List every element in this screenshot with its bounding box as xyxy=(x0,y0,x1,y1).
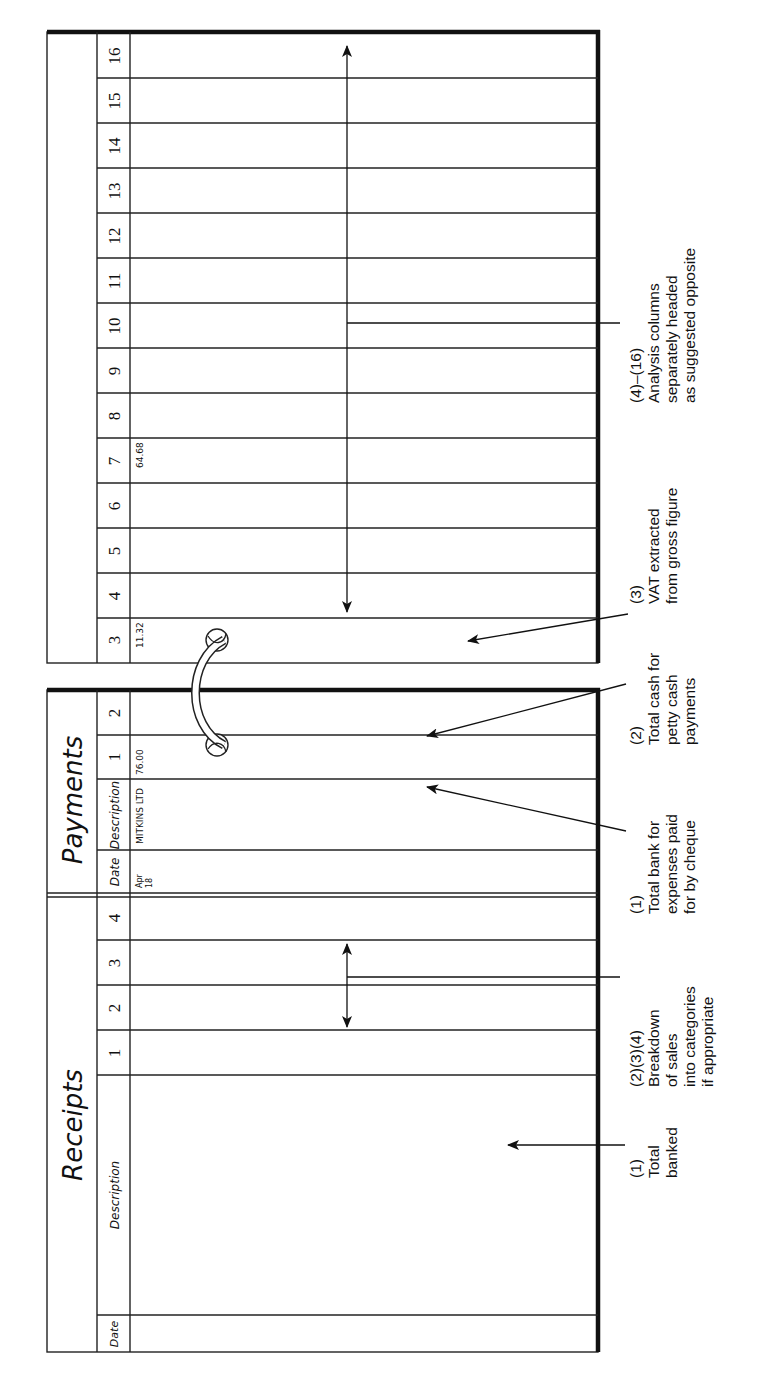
col-header-3: 3 xyxy=(105,636,124,645)
col-header-6: 6 xyxy=(105,502,124,511)
payments-col-1: 1 xyxy=(105,753,124,762)
col-header-13: 13 xyxy=(105,183,124,200)
receipts-column-headers: 4 3 2 1 Description Date xyxy=(105,913,124,1347)
cash-book-page: Payments Receipts 2 1 Description Date 7… xyxy=(47,688,600,1352)
col-header-7: 7 xyxy=(105,456,124,465)
payments-col-description: Description xyxy=(108,781,122,849)
col-header-14: 14 xyxy=(105,137,124,155)
analysis-column-headers: 3 4 5 6 7 8 9 10 11 12 13 14 15 16 xyxy=(105,48,124,645)
col-header-5: 5 xyxy=(105,547,124,556)
payments-entry-date-day: 18 xyxy=(145,878,154,888)
analysis-page: 3 4 5 6 7 8 9 10 11 12 13 14 15 16 11.32… xyxy=(47,30,600,663)
ring-binder-icon xyxy=(196,629,229,756)
col-header-16: 16 xyxy=(105,48,124,65)
annotations: (1) Total banked (2)(3)(4) Breakdown of … xyxy=(627,248,716,1178)
receipts-title: Receipts xyxy=(58,1069,88,1181)
entry-col3-value: 11.32 xyxy=(135,622,145,648)
col-header-4: 4 xyxy=(105,591,124,600)
annotation-analysis-3: (3) VAT extracted from gross figure xyxy=(627,488,680,604)
payments-entry-col1: 76.00 xyxy=(135,749,145,775)
payments-title: Payments xyxy=(58,736,88,865)
annotation-payments-2: (2) Total cash for petty cash payments xyxy=(627,649,698,746)
payments-col-date: Date xyxy=(108,858,122,887)
annotation-arrows xyxy=(347,46,628,1145)
payments-col-2: 2 xyxy=(105,709,124,718)
receipts-col-2: 2 xyxy=(105,1004,124,1013)
annotation-analysis-4-16: (4)–(16) Analysis columns separately hea… xyxy=(627,248,698,403)
receipts-col-1: 1 xyxy=(105,1049,124,1058)
col-header-15: 15 xyxy=(105,93,124,110)
receipts-col-4: 4 xyxy=(105,913,124,922)
annotation-receipts-1: (1) Total banked xyxy=(627,1127,680,1178)
annotation-payments-1: (1) Total bank for expenses paid for by … xyxy=(627,810,698,914)
col-header-8: 8 xyxy=(105,412,124,421)
col-header-10: 10 xyxy=(105,318,124,335)
cash-book-diagram: 3 4 5 6 7 8 9 10 11 12 13 14 15 16 11.32… xyxy=(0,0,777,1387)
entry-col7-value: 64.68 xyxy=(135,442,145,468)
receipts-col-description: Description xyxy=(108,1161,122,1229)
col-header-9: 9 xyxy=(105,367,124,376)
annotation-receipts-234: (2)(3)(4) Breakdown of sales into catego… xyxy=(627,982,716,1087)
col-header-12: 12 xyxy=(105,228,124,245)
col-header-11: 11 xyxy=(105,273,124,289)
payments-entry-date-month: Apr xyxy=(135,873,144,888)
receipts-col-date: Date xyxy=(108,1321,121,1348)
payments-entry-description: MITKINS LTD xyxy=(135,788,145,844)
receipts-col-3: 3 xyxy=(105,959,124,968)
